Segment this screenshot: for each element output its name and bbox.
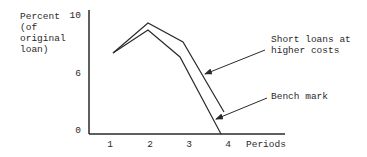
y-axis-title-line: Percent [20, 11, 70, 22]
x-tick-3: 3 [184, 139, 194, 150]
y-axis-title-line: (of [20, 22, 70, 33]
annotation-arrow-short-loans [205, 50, 265, 74]
annotation-short-loans-line2: higher costs [271, 45, 339, 56]
x-tick-2: 2 [145, 139, 155, 150]
line-chart: Percent (of original loan) 10 6 0 1 2 3 … [0, 0, 367, 157]
y-tick-6: 6 [67, 68, 81, 79]
x-tick-1: 1 [105, 139, 115, 150]
y-axis-title-line: original [20, 33, 70, 44]
annotation-bench-mark: Bench mark [271, 91, 328, 102]
annotation-short-loans-line1: Short loans at [271, 34, 351, 45]
annotation-arrow-bench-mark [216, 98, 267, 119]
series-short-loans-line [113, 23, 224, 112]
y-tick-0: 0 [67, 125, 81, 136]
x-axis-title: Periods [246, 139, 286, 150]
y-tick-10: 10 [67, 10, 81, 21]
y-axis-title-line: loan) [20, 44, 70, 55]
series-bench-mark-line [113, 30, 221, 134]
x-tick-4: 4 [223, 139, 233, 150]
y-axis-title: Percent (of original loan) [20, 11, 70, 55]
